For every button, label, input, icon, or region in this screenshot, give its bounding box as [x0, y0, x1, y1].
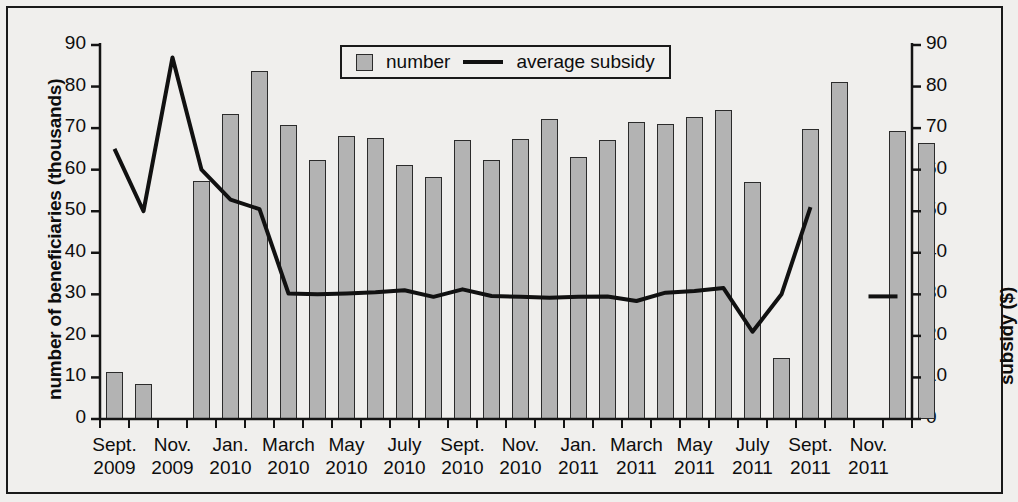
chart-legend: number average subsidy	[340, 45, 671, 79]
legend-label-number: number	[386, 51, 450, 73]
line-icon	[463, 60, 503, 64]
average-subsidy-line	[115, 57, 811, 331]
legend-label-average-subsidy: average subsidy	[516, 51, 654, 73]
swatch-icon	[356, 54, 373, 71]
